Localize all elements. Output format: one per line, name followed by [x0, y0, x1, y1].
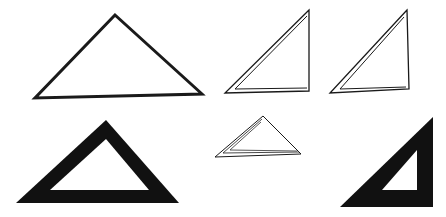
solid-band-right-triangle [340, 117, 433, 207]
triangles-illustration [0, 0, 446, 217]
band-outer [340, 117, 433, 207]
double-line-right-triangle-1 [225, 10, 309, 93]
outline-triangle-large [35, 15, 202, 98]
triangles-svg [0, 0, 446, 217]
triangle-outer-line [330, 10, 409, 93]
triangle-outer-line [225, 10, 309, 93]
layer-inner [230, 122, 297, 151]
triangle-inner-line [340, 17, 406, 89]
layered-small-triangle [215, 116, 301, 157]
layer-middle [223, 119, 299, 153]
solid-band-triangle-left [16, 120, 179, 203]
double-line-right-triangle-2 [330, 10, 409, 93]
triangle-inner-line [235, 16, 307, 89]
